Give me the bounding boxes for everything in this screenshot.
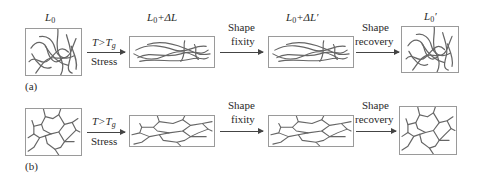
- arrow-shape-fixity: [220, 131, 263, 132]
- transition-label-shape: Shape: [362, 99, 389, 111]
- state-label-l0: L0: [45, 11, 55, 27]
- transition-label-heating: T>Tg: [92, 36, 116, 52]
- network-fixed-image: [269, 116, 353, 146]
- network-original-image: [26, 109, 81, 155]
- arrow-heating-stress: [87, 52, 125, 53]
- transition-label-heating: T>Tg: [92, 115, 116, 131]
- label-suffix: +ΔL′: [296, 11, 318, 23]
- state-label-l0-plus-dl-prime: L0+ΔL′: [286, 11, 319, 27]
- transition-label-fixity: fixity: [231, 113, 255, 125]
- chains-fixed-box: [268, 36, 354, 68]
- label-suffix: ′: [434, 10, 436, 22]
- chains-stretched-image: [130, 37, 214, 67]
- label-sub: 0: [51, 16, 55, 25]
- arrow-heating-stress: [87, 132, 125, 133]
- network-fixed-box: [268, 115, 354, 147]
- chains-recovered-box: [401, 26, 459, 73]
- network-recovered-box: [399, 106, 457, 155]
- network-stretched-box: [129, 115, 215, 147]
- network-stretched-image: [130, 116, 214, 146]
- chains-recovered-image: [402, 27, 458, 72]
- transition-label-shape: Shape: [228, 21, 255, 33]
- network-original-box: [25, 108, 82, 156]
- transition-top-sub: g: [112, 41, 116, 50]
- transition-top: T>T: [92, 115, 112, 127]
- panel-tag-a: (a): [25, 80, 37, 92]
- transition-label-recovery: recovery: [355, 113, 393, 125]
- transition-label-shape: Shape: [228, 99, 255, 111]
- chains-fixed-image: [269, 37, 353, 67]
- state-label-l0-plus-dl: L0+ΔL: [147, 11, 177, 27]
- arrow-shape-fixity: [220, 52, 263, 53]
- state-label-l0-prime: L0′: [424, 10, 437, 26]
- label-suffix: +ΔL: [157, 11, 177, 23]
- arrow-shape-recovery: [356, 52, 399, 53]
- chains-original-box: [25, 28, 82, 76]
- chains-stretched-box: [129, 36, 215, 68]
- transition-label-stress: Stress: [91, 135, 117, 147]
- panel-tag-b: (b): [25, 160, 38, 172]
- chains-original-image: [26, 29, 81, 75]
- transition-label-stress: Stress: [91, 55, 117, 67]
- arrow-shape-recovery: [356, 131, 396, 132]
- transition-top: T>T: [92, 36, 112, 48]
- transition-label-fixity: fixity: [231, 35, 255, 47]
- transition-label-shape: Shape: [362, 21, 389, 33]
- transition-label-recovery: recovery: [355, 35, 393, 47]
- network-recovered-image: [400, 107, 456, 154]
- transition-top-sub: g: [112, 120, 116, 129]
